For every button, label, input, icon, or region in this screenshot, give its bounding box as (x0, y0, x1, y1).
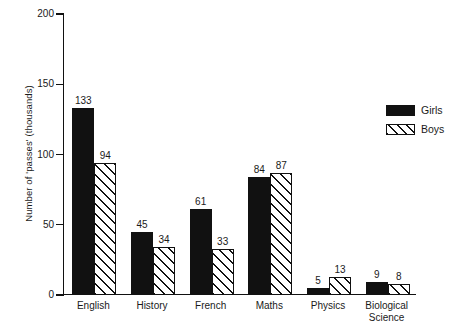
bar-group: 513 (307, 14, 351, 295)
bar-boys[interactable] (212, 249, 234, 295)
y-axis-tick-label: 0 (12, 290, 54, 300)
bar-value-label: 61 (186, 197, 216, 207)
legend-item[interactable]: Boys (386, 123, 456, 139)
legend-label: Girls (421, 104, 443, 117)
bar-girls[interactable] (72, 108, 94, 295)
y-axis-tick (56, 13, 64, 14)
y-axis-tick (56, 224, 64, 225)
chart-legend: GirlsBoys (386, 104, 456, 142)
y-axis-tick-label: 150 (12, 79, 54, 89)
bar-value-label: 94 (90, 151, 120, 161)
bar-girls[interactable] (366, 282, 388, 295)
bar-girls[interactable] (307, 288, 329, 295)
y-axis-tick-label: 100 (12, 150, 54, 160)
category-label: Biological Science (351, 300, 422, 323)
bar-value-label: 45 (127, 220, 157, 230)
bar-boys[interactable] (388, 284, 410, 295)
bar-group: 98 (366, 14, 410, 295)
bar-group: 4534 (131, 14, 175, 295)
bar-chart: Number of 'passes' (thousands) 050100150… (0, 0, 456, 324)
bar-value-label: 34 (149, 235, 179, 245)
bar-girls[interactable] (248, 177, 270, 295)
y-axis-tick (56, 154, 64, 155)
y-axis-tick (56, 294, 64, 295)
bar-girls[interactable] (190, 209, 212, 295)
y-axis-tick-label: 200 (12, 9, 54, 19)
y-axis-tick-label: 50 (12, 220, 54, 230)
y-axis-tick (56, 84, 64, 85)
bar-value-label: 133 (68, 96, 98, 106)
bar-group: 6133 (190, 14, 234, 295)
bar-value-label: 87 (266, 161, 296, 171)
bar-boys[interactable] (94, 163, 116, 295)
bar-boys[interactable] (270, 173, 292, 295)
bar-group: 8487 (248, 14, 292, 295)
legend-item[interactable]: Girls (386, 104, 456, 120)
solid-black-swatch (386, 105, 415, 116)
bar-group: 13394 (72, 14, 116, 295)
plot-area: 1339445346133848751398 (64, 14, 416, 295)
hatched-swatch (386, 124, 415, 135)
legend-label: Boys (421, 123, 444, 136)
bar-value-label: 33 (208, 237, 238, 247)
bar-boys[interactable] (153, 247, 175, 295)
bar-boys[interactable] (329, 277, 351, 295)
bar-value-label: 13 (325, 265, 355, 275)
bar-value-label: 8 (384, 272, 414, 282)
